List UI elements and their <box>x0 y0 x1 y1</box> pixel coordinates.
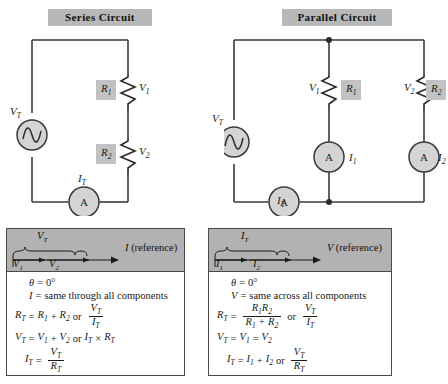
series-source-label: VT <box>10 105 21 120</box>
series-phasor-brace-label: VT <box>37 230 47 244</box>
series-phasor-v2-label: V2 <box>49 258 59 272</box>
parallel-source-label: VT <box>212 112 223 127</box>
series-total-current-label: IT <box>78 172 86 187</box>
parallel-resistor-r1-label: R1 <box>341 80 361 100</box>
parallel-ammeter-i2-letter: A <box>420 151 428 163</box>
parallel-phasor-brace-label: IT <box>241 230 248 244</box>
parallel-formula-panel: IT I1 I2 V (reference) θ=0° V=same acros… <box>208 228 392 376</box>
parallel-circuit-title: Parallel Circuit <box>282 9 392 26</box>
junction-dot-bottom <box>326 199 332 205</box>
parallel-resistor-r2-label: R2 <box>426 80 446 100</box>
series-eq-theta: θ=0° <box>29 277 178 288</box>
parallel-eq-it: IT= I1+I2 or VTRT <box>227 347 385 373</box>
parallel-formula-list: θ=0° V=same across all components RT= R1… <box>209 272 391 381</box>
parallel-ammeter-i1-letter: A <box>325 151 333 163</box>
parallel-brace <box>215 247 289 256</box>
series-phasor-reference-label: I (reference) <box>125 242 177 253</box>
parallel-phasor-i1-label: I1 <box>216 258 223 272</box>
parallel-eq-voltage-rule: V=same across all components <box>231 290 385 301</box>
parallel-circuit-schematic: A A A <box>224 26 448 216</box>
series-formula-panel: VT V1 V2 I (reference) θ=0° I=same throu… <box>6 228 185 376</box>
parallel-v1-label: V1 <box>309 81 319 96</box>
series-eq-it: IT= VTRT <box>25 347 178 373</box>
series-circuit-schematic: A <box>0 26 224 216</box>
parallel-total-current-label: IT <box>277 194 285 209</box>
series-phasor-v1-label: V1 <box>13 258 23 272</box>
series-resistor-r2-symbol <box>121 138 135 174</box>
series-eq-rt: RT= R1+R2 or VTIT <box>15 303 178 329</box>
parallel-resistor-r1-symbol <box>322 74 336 110</box>
parallel-i2-label: I2 <box>438 151 445 166</box>
parallel-v2-label: V2 <box>404 81 414 96</box>
series-ammeter-letter: A <box>80 196 88 208</box>
parallel-phasor-reference-label: V (reference) <box>327 242 382 253</box>
junction-dot-top <box>326 37 332 43</box>
series-eq-current-rule: I=same through all components <box>29 290 178 301</box>
parallel-eq-theta: θ=0° <box>231 277 385 288</box>
parallel-phasor-header: IT I1 I2 V (reference) <box>209 229 391 272</box>
parallel-phasor-i2-label: I2 <box>253 258 260 272</box>
series-resistor-r2-label: R2 <box>96 144 116 164</box>
parallel-eq-vt: VT= V1=V2 <box>217 331 385 345</box>
series-formula-list: θ=0° I=same through all components RT= R… <box>7 272 184 381</box>
parallel-i1-label: I1 <box>349 151 356 166</box>
series-circuit-title: Series Circuit <box>48 9 152 26</box>
parallel-eq-rt: RT= R1R2 R1 + R2 or VTIT <box>217 303 385 329</box>
parallel-ac-source-symbol <box>224 127 249 157</box>
series-eq-vt: VT= V1+V2 or IT×RT <box>15 331 178 345</box>
series-v1-label: V1 <box>139 81 149 96</box>
series-phasor-header: VT V1 V2 I (reference) <box>7 229 184 272</box>
series-resistor-r1-label: R1 <box>96 80 116 100</box>
figure-root: Series Circuit <box>0 0 448 384</box>
series-brace <box>13 247 87 256</box>
series-resistor-r1-symbol <box>121 74 135 110</box>
series-v2-label: V2 <box>139 145 149 160</box>
